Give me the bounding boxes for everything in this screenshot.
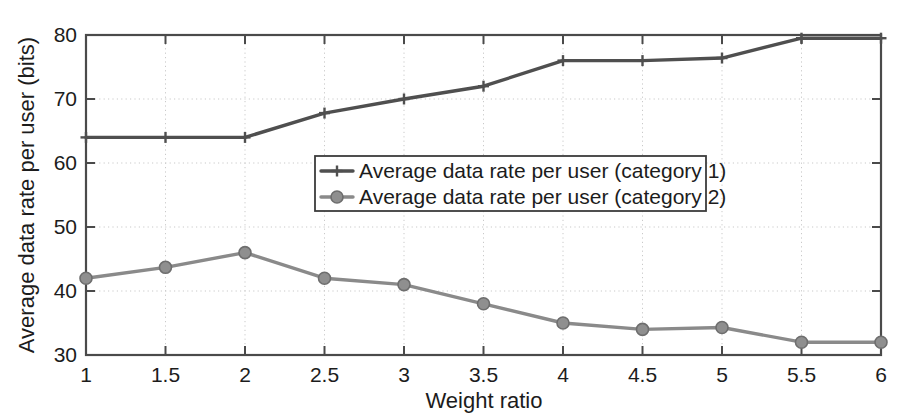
- data-point-marker: [398, 279, 410, 291]
- data-point-marker: [399, 94, 410, 105]
- x-tick-label: 5.5: [787, 363, 816, 386]
- data-point-marker: [478, 298, 490, 310]
- y-tick-label: 60: [54, 151, 77, 174]
- data-point-marker: [319, 272, 331, 284]
- y-tick-label: 50: [54, 215, 77, 238]
- y-tick-label: 70: [54, 87, 77, 110]
- data-point-marker: [557, 317, 569, 329]
- data-point-marker: [160, 261, 172, 273]
- y-tick-label: 40: [54, 279, 77, 302]
- data-point-marker: [637, 55, 648, 66]
- data-point-marker: [80, 272, 92, 284]
- x-tick-label: 3: [398, 363, 410, 386]
- line-chart-plot: 304050607080 11.522.533.544.555.56 Avera…: [0, 0, 923, 420]
- legend: Average data rate per user (category 1)A…: [315, 156, 726, 211]
- data-point-marker: [240, 132, 251, 143]
- x-tick-label: 4: [557, 363, 569, 386]
- data-point-marker: [717, 53, 728, 64]
- data-point-marker: [319, 108, 330, 119]
- data-point-marker: [160, 132, 171, 143]
- legend-label: Average data rate per user (category 2): [359, 185, 726, 208]
- data-point-marker: [558, 55, 569, 66]
- data-point-marker: [81, 132, 92, 143]
- data-point-marker: [875, 336, 887, 348]
- y-tick-label: 30: [54, 343, 77, 366]
- y-axis-title: Average data rate per user (bits): [14, 37, 39, 353]
- data-point-marker: [796, 336, 808, 348]
- data-point-marker: [239, 247, 251, 259]
- x-tick-label: 2: [239, 363, 251, 386]
- x-tick-label: 1: [80, 363, 92, 386]
- x-axis-title: Weight ratio: [426, 388, 543, 413]
- y-tick-label: 80: [54, 23, 77, 46]
- x-tick-label: 3.5: [469, 363, 498, 386]
- ytick-label-layer: 304050607080: [54, 23, 77, 366]
- xtick-label-layer: 11.522.533.544.555.56: [80, 363, 887, 386]
- data-point-marker: [478, 81, 489, 92]
- x-tick-label: 5: [716, 363, 728, 386]
- chart-figure: 304050607080 11.522.533.544.555.56 Avera…: [0, 0, 923, 420]
- x-tick-label: 4.5: [628, 363, 657, 386]
- x-tick-label: 2.5: [310, 363, 339, 386]
- data-point-marker: [637, 323, 649, 335]
- x-tick-label: 6: [875, 363, 887, 386]
- x-tick-label: 1.5: [151, 363, 180, 386]
- legend-label: Average data rate per user (category 1): [359, 159, 726, 182]
- legend-circle-icon: [331, 191, 343, 203]
- data-point-marker: [716, 321, 728, 333]
